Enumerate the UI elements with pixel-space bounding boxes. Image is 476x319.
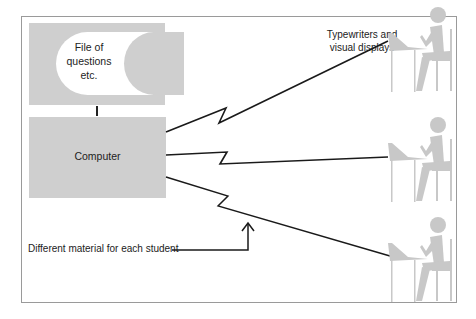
annotation-arrow-line — [172, 224, 248, 250]
student-terminal-icon-3 — [388, 217, 452, 302]
student-terminal-icon-1 — [388, 7, 452, 92]
link-line-1 — [166, 41, 388, 132]
diagram-lines — [0, 0, 476, 319]
student-terminal-icon-2 — [388, 117, 452, 202]
link-line-3 — [166, 177, 390, 256]
link-line-2 — [166, 152, 388, 164]
